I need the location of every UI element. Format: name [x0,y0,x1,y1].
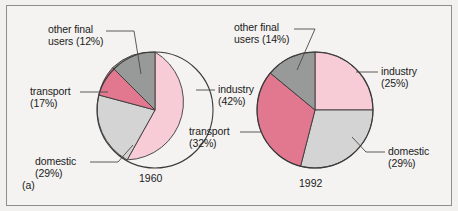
label-1960-transport: transport (17%) [30,86,71,109]
label-1992-industry-line1: industry [381,66,417,78]
label-1992-domestic-line1: domestic [388,146,429,158]
label-1960-industry: industry (42%) [218,84,254,107]
label-1960-other-final-users: other final users (12%) [48,24,104,47]
year-label-1992: 1992 [299,177,322,189]
label-1992-other-final-users-line2: users (14%) [234,34,290,46]
panel-tag: (a) [22,179,35,191]
year-label-1960: 1960 [139,172,162,184]
label-1960-domestic-line1: domestic [35,156,76,168]
label-1992-domestic-line2: (29%) [388,158,429,170]
label-1992-industry: industry (25%) [381,66,417,89]
label-1960-industry-line2: (42%) [218,96,254,108]
label-1992-other-final-users: other final users (14%) [234,22,290,45]
label-1960-other-final-users-line2: users (12%) [48,36,104,48]
label-1992-other-final-users-line1: other final [234,22,290,34]
pie-1960 [97,52,213,168]
label-1960-domestic-line2: (29%) [35,168,76,180]
label-1992-transport-line2: (32%) [189,138,230,150]
label-1960-transport-line2: (17%) [30,98,71,110]
label-1960-industry-line1: industry [218,84,254,96]
label-1960-transport-line1: transport [30,86,71,98]
figure-container: other final users (12%) transport (17%) … [0,0,458,211]
pie-1992 [257,52,373,168]
label-1992-domestic: domestic (29%) [388,146,429,169]
pie-1992-slice-industry [315,52,373,110]
label-1992-industry-line2: (25%) [381,78,417,90]
label-1960-domestic: domestic (29%) [35,156,76,179]
label-1992-transport-line1: transport [189,126,230,138]
label-1992-transport: transport (32%) [189,126,230,149]
label-1960-other-final-users-line1: other final [48,24,104,36]
